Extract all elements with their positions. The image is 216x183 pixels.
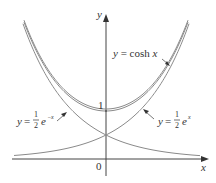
origin-label: 0 — [96, 160, 102, 172]
label-emx-y: y — [16, 115, 22, 127]
label-emx-eq: = — [24, 115, 30, 127]
arrow-emx-head-icon — [61, 112, 67, 117]
label-cosh-x: x — [152, 47, 158, 59]
x-axis-label: x — [200, 161, 206, 173]
curve-half-exp-neg-x — [23, 24, 200, 156]
label-ex-den: 2 — [175, 121, 179, 130]
label-ex-eq: = — [165, 115, 171, 127]
label-ex-e: e — [182, 115, 187, 127]
y-axis-arrow-icon — [103, 14, 109, 22]
label-ex-exp: x — [187, 114, 191, 120]
label-cosh-eq: = cosh — [118, 47, 153, 59]
tick-label-one: 1 — [98, 99, 104, 111]
arrow-ex-head-icon — [143, 109, 149, 114]
label-ex-y: y — [157, 115, 163, 127]
label-emx-num: 1 — [34, 110, 38, 119]
graph-canvas: y x 0 1 y = cosh x y = 1 2 e −x y = 1 2 … — [0, 0, 216, 183]
label-emx-e: e — [41, 115, 46, 127]
curve-half-exp-x — [14, 24, 189, 156]
tick-one-marker — [105, 110, 107, 112]
label-emx-den: 2 — [34, 121, 38, 130]
label-ex-num: 1 — [175, 110, 179, 119]
label-cosh: y = cosh x — [112, 47, 158, 59]
label-emx-exp: −x — [47, 114, 54, 120]
arrow-ex-line — [146, 112, 154, 119]
y-axis-label: y — [96, 8, 102, 20]
